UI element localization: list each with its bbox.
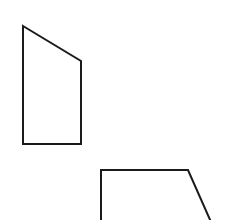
diagram-svg [0, 0, 226, 220]
upper-quadrilateral [23, 26, 81, 144]
lower-quadrilateral [101, 170, 211, 220]
diagram-canvas [0, 0, 226, 220]
